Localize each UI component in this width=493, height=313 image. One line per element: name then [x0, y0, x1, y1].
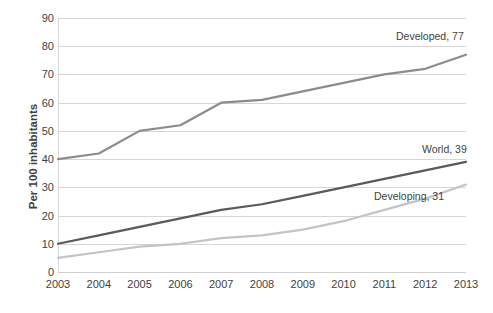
- y-tick-label-40: 40: [42, 153, 54, 165]
- x-tick-label-2008: 2008: [250, 278, 274, 290]
- series-label-world: World, 39: [422, 143, 467, 155]
- x-tick-label-2010: 2010: [331, 278, 355, 290]
- y-tick-label-0: 0: [48, 266, 54, 278]
- x-axis-tick-labels: 2003200420052006200720082009201020112012…: [58, 278, 466, 298]
- y-tick-label-50: 50: [42, 125, 54, 137]
- plot-area: [58, 18, 466, 272]
- y-tick-label-20: 20: [42, 210, 54, 222]
- y-axis-tick-labels: 0102030405060708090: [26, 18, 54, 272]
- line-chart: Per 100 inhabitants 0102030405060708090 …: [0, 0, 493, 313]
- x-tick-label-2012: 2012: [413, 278, 437, 290]
- y-tick-label-90: 90: [42, 12, 54, 24]
- x-tick-label-2007: 2007: [209, 278, 233, 290]
- series-label-developed: Developed, 77: [396, 30, 464, 42]
- x-tick-label-2005: 2005: [127, 278, 151, 290]
- y-tick-label-80: 80: [42, 40, 54, 52]
- series-label-developing: Developing, 31: [374, 190, 444, 202]
- x-tick-label-2004: 2004: [87, 278, 111, 290]
- y-tick-label-10: 10: [42, 238, 54, 250]
- series-lines: [58, 18, 466, 272]
- x-tick-label-2003: 2003: [46, 278, 70, 290]
- y-tick-label-30: 30: [42, 181, 54, 193]
- x-tick-label-2013: 2013: [454, 278, 478, 290]
- x-tick-label-2009: 2009: [291, 278, 315, 290]
- y-tick-label-70: 70: [42, 68, 54, 80]
- x-tick-label-2011: 2011: [373, 278, 397, 290]
- gridline-0: [58, 272, 466, 273]
- x-tick-label-2006: 2006: [168, 278, 192, 290]
- series-line-world: [58, 162, 466, 244]
- series-line-developed: [58, 55, 466, 159]
- y-tick-label-60: 60: [42, 97, 54, 109]
